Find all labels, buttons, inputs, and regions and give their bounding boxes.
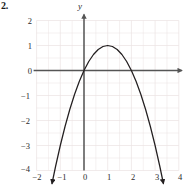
grid-lines xyxy=(37,21,179,171)
y-tick-label-neg2: −2 xyxy=(12,116,30,126)
x-tick-label-1: 1 xyxy=(101,172,117,182)
x-tick-label-4: 4 xyxy=(172,172,188,182)
x-tick-label-3: 3 xyxy=(149,172,165,182)
graph-figure: 2. y 2 1 0 −1 −2 −3 −4 −2 −1 0 1 2 3 4 xyxy=(0,0,188,187)
x-tick-label-0: 0 xyxy=(77,172,93,182)
y-tick-label-neg1: −1 xyxy=(12,91,30,101)
y-tick-label-neg3: −3 xyxy=(12,141,30,151)
y-tick-label-2: 2 xyxy=(14,16,32,26)
x-tick-label-2: 2 xyxy=(125,172,141,182)
y-tick-label-0: 0 xyxy=(14,66,32,76)
y-tick-label-neg4: −4 xyxy=(12,164,30,174)
x-tick-label-neg2: −2 xyxy=(29,172,45,182)
x-tick-label-neg1: −1 xyxy=(54,172,70,182)
problem-number-label: 2. xyxy=(1,0,8,12)
y-tick-label-1: 1 xyxy=(14,41,32,51)
y-axis-label: y xyxy=(78,1,82,11)
